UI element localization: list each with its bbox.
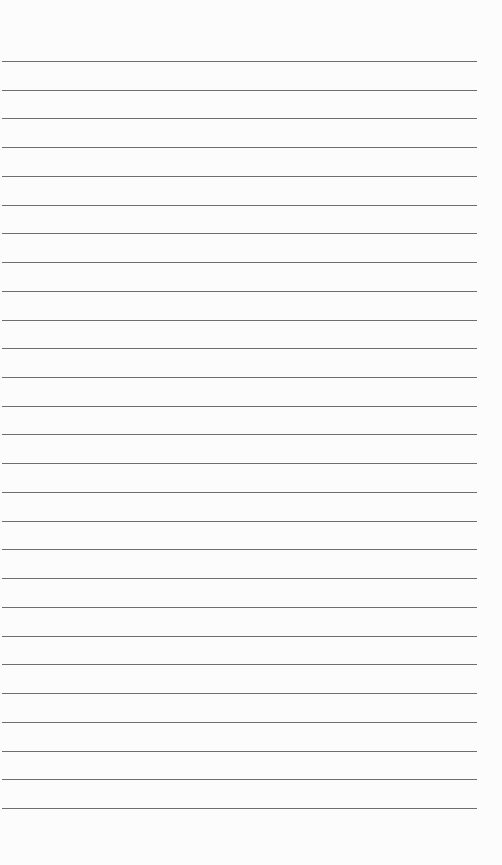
ruled-line [2, 779, 477, 780]
ruled-line [2, 463, 477, 464]
ruled-line [2, 377, 477, 378]
ruled-line [2, 176, 477, 177]
ruled-line [2, 808, 477, 809]
ruled-line [2, 262, 477, 263]
ruled-line [2, 291, 477, 292]
ruled-line [2, 751, 477, 752]
ruled-line [2, 521, 477, 522]
ruled-line [2, 549, 477, 550]
ruled-line [2, 61, 477, 62]
ruled-line [2, 607, 477, 608]
lined-paper-sheet [0, 0, 502, 865]
ruled-line [2, 664, 477, 665]
ruled-line [2, 722, 477, 723]
ruled-line [2, 492, 477, 493]
ruled-line [2, 147, 477, 148]
ruled-line [2, 693, 477, 694]
ruled-line [2, 434, 477, 435]
ruled-line [2, 90, 477, 91]
ruled-line [2, 205, 477, 206]
ruled-line [2, 233, 477, 234]
ruled-line [2, 320, 477, 321]
ruled-line [2, 406, 477, 407]
ruled-line [2, 118, 477, 119]
ruled-line [2, 348, 477, 349]
ruled-line [2, 578, 477, 579]
ruled-line [2, 636, 477, 637]
